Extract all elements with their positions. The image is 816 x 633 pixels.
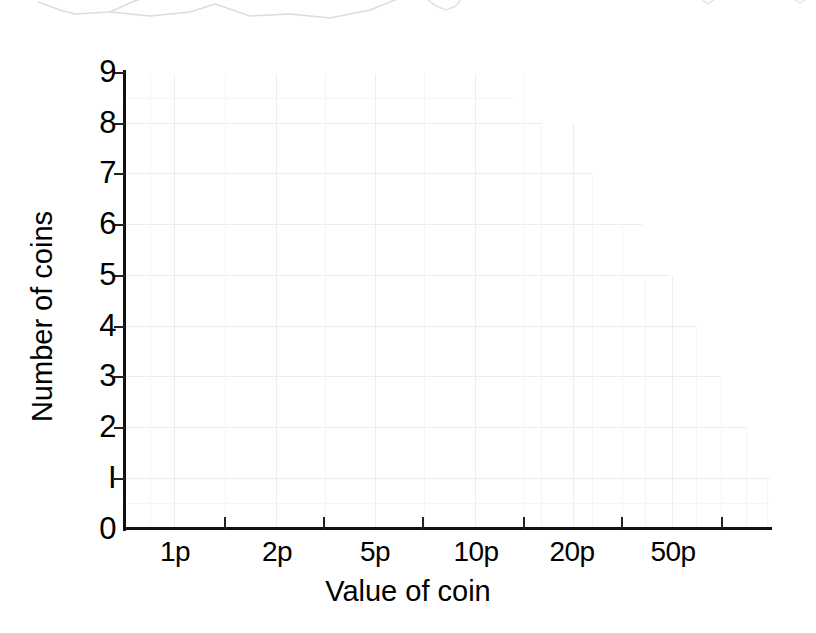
gridline-v-1p xyxy=(174,74,175,528)
gridline-v-minor-e xyxy=(524,74,525,528)
gridline-h-8 xyxy=(126,123,541,124)
gridline-v-10p xyxy=(475,74,476,528)
gridline-v-5p xyxy=(375,74,376,528)
y-tick-label-4: 4 xyxy=(76,310,116,341)
artifact-shape-icon xyxy=(0,0,816,26)
x-axis-line xyxy=(123,527,772,530)
gridline-v-minor-j xyxy=(696,326,697,528)
gridline-h-1 xyxy=(126,478,770,479)
x-tick-label-5p: 5p xyxy=(330,537,420,567)
x-tick-label-10p: 10p xyxy=(431,537,521,567)
x-tick-50p xyxy=(721,517,723,529)
gridline-h-minor-85 xyxy=(126,98,516,99)
gridline-v-2p xyxy=(276,74,277,528)
gridline-v-minor-i xyxy=(645,275,646,528)
gridline-h-minor-05 xyxy=(126,503,770,504)
x-tick-label-1p: 1p xyxy=(130,537,220,567)
gridline-h-6 xyxy=(126,224,642,225)
y-tick-label-7: 7 xyxy=(76,157,116,188)
gridline-v-minor-c xyxy=(325,74,326,528)
gridline-v-minor-k xyxy=(721,376,722,528)
x-tick-label-20p: 20p xyxy=(527,537,617,567)
y-tick-label-9: 9 xyxy=(76,56,116,87)
y-axis-line xyxy=(123,70,126,531)
x-tick-10p xyxy=(523,517,525,529)
y-tick-label-2: 2 xyxy=(76,411,116,442)
gridline-h-2 xyxy=(126,427,746,428)
gridline-v-minor-a xyxy=(150,74,151,528)
gridline-h-7 xyxy=(126,173,592,174)
gridline-v-minor-l xyxy=(746,427,747,528)
y-tick-label-6: 6 xyxy=(76,208,116,239)
gridline-v-minor-h xyxy=(622,224,623,528)
gridline-h-4 xyxy=(126,326,696,327)
x-tick-label-2p: 2p xyxy=(232,537,322,567)
y-tick-label-0: 0 xyxy=(76,513,116,544)
x-tick-label-50p: 50p xyxy=(628,537,718,567)
chart-canvas: 9 8 7 6 5 4 3 2 I 0 1p 2p 5p 10p 20p 50p… xyxy=(0,0,816,633)
gridline-v-minor-b xyxy=(225,74,226,528)
x-axis-title: Value of coin xyxy=(0,575,816,608)
x-tick-5p xyxy=(422,517,424,529)
top-crop-artifact xyxy=(0,0,816,26)
x-tick-20p xyxy=(621,517,623,529)
gridline-v-20p xyxy=(573,123,574,528)
y-tick-label-1: I xyxy=(76,462,116,493)
y-axis-title: Number of coins xyxy=(26,167,59,467)
gridline-v-50p xyxy=(672,275,673,528)
y-tick-label-3: 3 xyxy=(76,360,116,391)
gridline-v-minor-f xyxy=(541,123,542,528)
y-tick-label-5: 5 xyxy=(76,259,116,290)
y-tick-label-8: 8 xyxy=(76,107,116,138)
gridline-v-minor-g xyxy=(592,173,593,528)
x-tick-2p xyxy=(323,517,325,529)
gridline-v-minor-d xyxy=(424,74,425,528)
gridline-h-5 xyxy=(126,275,670,276)
x-tick-1p xyxy=(224,517,226,529)
